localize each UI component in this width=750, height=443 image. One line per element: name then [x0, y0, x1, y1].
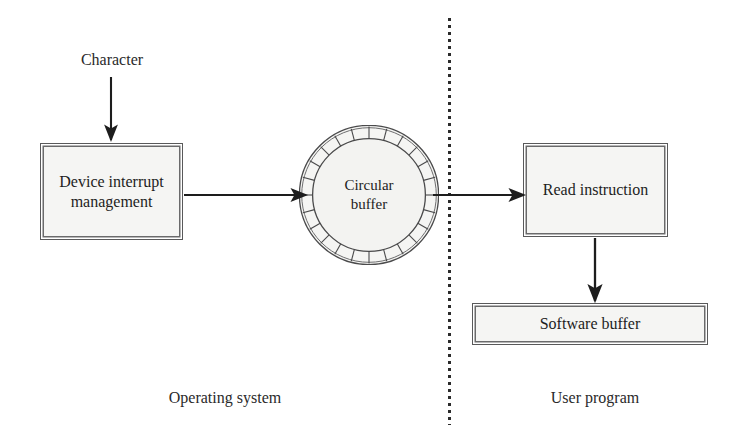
user-program-region-label: User program	[515, 389, 675, 407]
read-instruction-label: Read instruction	[537, 180, 654, 200]
os-user-divider	[448, 18, 451, 425]
software-buffer-label: Software buffer	[534, 314, 647, 334]
circular-buffer-ring-icon	[299, 125, 439, 265]
read-instruction-box: Read instruction	[523, 143, 668, 237]
device-interrupt-management-label: Device interrupt management	[41, 172, 182, 211]
diagram-canvas: Character Device interrupt management Ci…	[0, 0, 750, 443]
circular-buffer-node: Circular buffer	[299, 125, 439, 265]
operating-system-region-label: Operating system	[145, 389, 305, 407]
device-interrupt-management-box: Device interrupt management	[40, 143, 183, 240]
character-input-label: Character	[63, 51, 161, 69]
software-buffer-box: Software buffer	[472, 303, 708, 345]
